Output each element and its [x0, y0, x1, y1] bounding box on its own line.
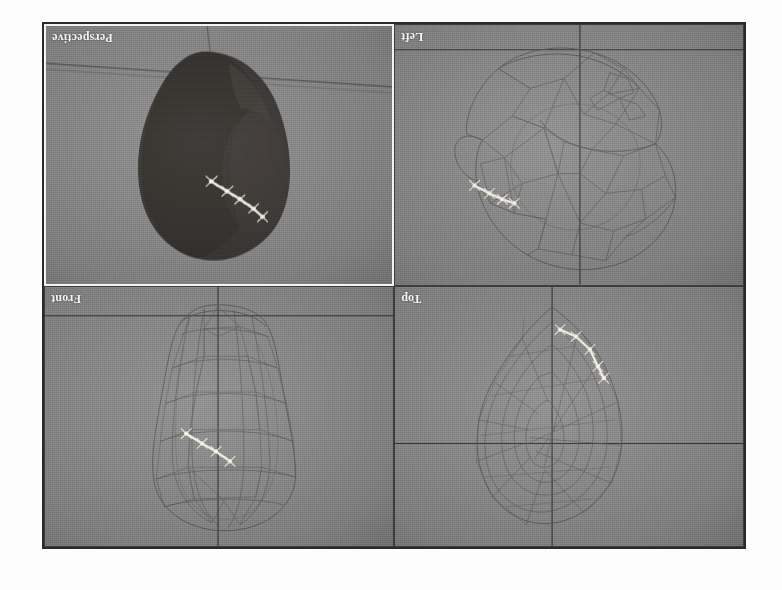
viewport-perspective[interactable]: Perspective — [44, 24, 394, 286]
left-render — [395, 25, 743, 285]
viewport-label-perspective: Perspective — [52, 30, 113, 45]
scanned-page: Perspective — [0, 0, 782, 590]
application-window: Perspective — [42, 22, 746, 549]
top-render — [395, 287, 743, 547]
viewport-top[interactable]: Top — [394, 286, 744, 548]
viewport-label-top: Top — [401, 291, 421, 306]
viewport-label-front: Front — [51, 291, 81, 306]
front-render — [45, 287, 393, 547]
viewport-front[interactable]: Front — [44, 286, 394, 548]
viewport-left[interactable]: Left — [394, 24, 744, 286]
viewport-label-left: Left — [401, 29, 423, 44]
quad-viewport-grid: Perspective — [44, 24, 744, 547]
perspective-render — [46, 26, 392, 284]
